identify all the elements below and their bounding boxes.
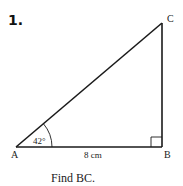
right-angle-marker: [151, 137, 162, 147]
side-ab-length: 8 cm: [84, 150, 102, 160]
vertex-label-b: B: [164, 149, 171, 160]
question-text: Find BC.: [51, 171, 95, 185]
triangle-diagram: 1. A B C 42° 8 cm Find BC.: [0, 0, 183, 186]
problem-number: 1.: [8, 12, 23, 28]
vertex-label-c: C: [167, 13, 174, 24]
side-ac-hypotenuse: [16, 23, 162, 147]
angle-a-value: 42°: [33, 136, 46, 146]
vertex-label-a: A: [11, 149, 19, 160]
